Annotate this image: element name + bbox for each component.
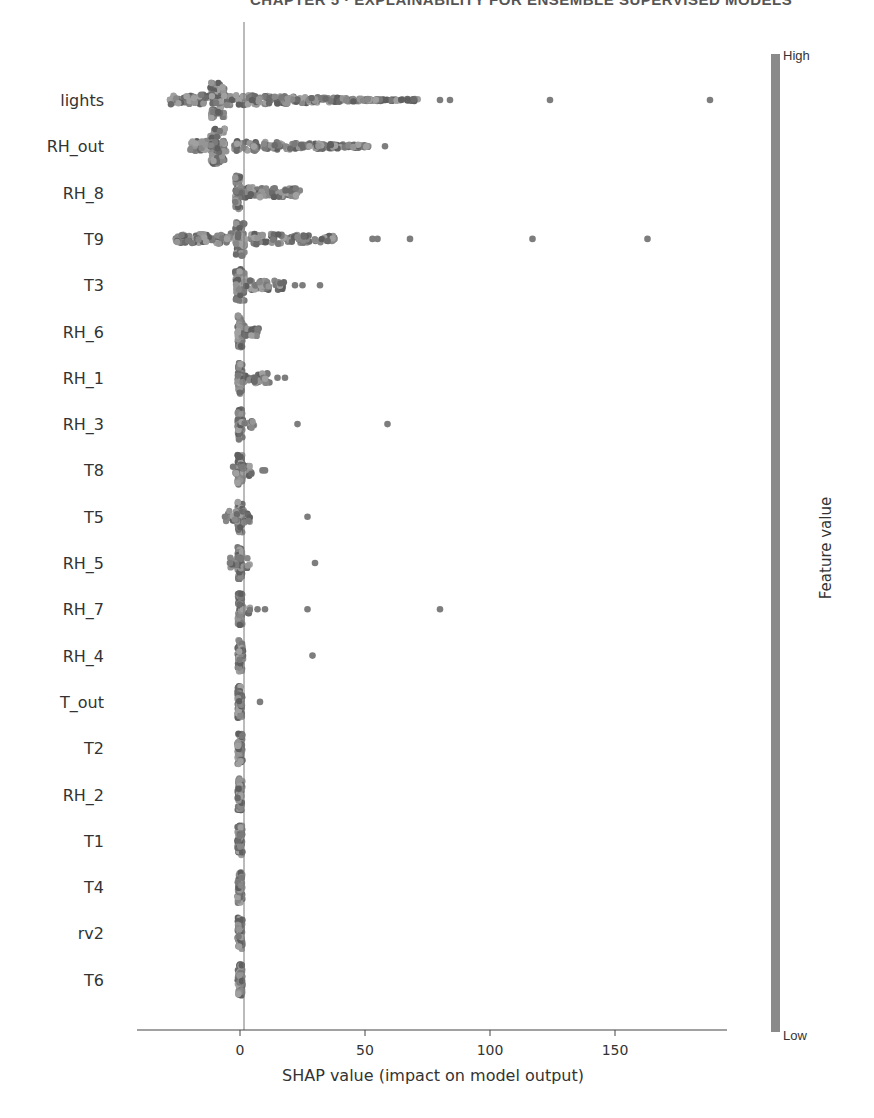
shap-point: [252, 379, 258, 385]
shap-point: [382, 143, 389, 150]
shap-point: [235, 313, 241, 319]
shap-point: [238, 343, 244, 349]
feature-label: RH_2: [63, 785, 104, 804]
feature-label: rv2: [78, 924, 104, 943]
shap-point: [201, 234, 207, 240]
shap-point: [236, 601, 242, 607]
shap-point: [266, 283, 272, 289]
shap-point: [293, 185, 299, 191]
shap-point: [253, 241, 259, 247]
shap-point: [319, 236, 325, 242]
shap-point: [238, 556, 244, 562]
shap-point: [309, 652, 316, 659]
shap-point: [407, 236, 414, 243]
x-tick-label: 50: [356, 1042, 374, 1058]
shap-point: [282, 375, 289, 382]
shap-point: [238, 882, 244, 888]
shap-point: [233, 241, 239, 247]
shap-point: [247, 463, 253, 469]
shap-point: [189, 138, 195, 144]
shap-point: [224, 236, 230, 242]
shap-point: [306, 143, 312, 149]
shap-point: [238, 824, 244, 830]
shap-point: [168, 101, 174, 107]
shap-point: [216, 241, 222, 247]
feature-label: T8: [84, 461, 104, 480]
shap-point: [437, 606, 444, 613]
shap-point: [217, 128, 223, 134]
shap-point: [312, 236, 318, 242]
shap-point: [447, 97, 454, 104]
shap-point: [208, 142, 214, 148]
shap-point: [236, 101, 242, 107]
shap-point: [236, 389, 242, 395]
shap-point: [235, 372, 241, 378]
shap-point: [254, 235, 260, 241]
shap-point: [208, 115, 214, 121]
shap-point: [245, 518, 251, 524]
shap-point: [246, 185, 252, 191]
shap-point: [270, 237, 276, 243]
shap-point: [291, 141, 297, 147]
shap-point: [272, 94, 278, 100]
feature-label: T9: [84, 229, 104, 248]
shap-point: [294, 234, 300, 240]
shap-point: [235, 231, 241, 237]
shap-point: [247, 277, 253, 283]
shap-point: [174, 239, 180, 245]
feature-label: RH_5: [63, 554, 104, 573]
shap-point: [275, 231, 281, 237]
shap-point: [236, 436, 242, 442]
shap-point: [312, 560, 319, 567]
shap-point: [707, 97, 714, 104]
shap-point: [237, 622, 243, 628]
shap-point: [254, 606, 261, 613]
shap-point: [234, 795, 240, 801]
shap-point: [308, 95, 314, 101]
shap-point: [301, 233, 307, 239]
shap-point: [292, 282, 299, 289]
shap-point: [644, 236, 651, 243]
x-tick-label: 0: [236, 1042, 245, 1058]
shap-point: [240, 464, 246, 470]
shap-point: [235, 329, 241, 335]
feature-label: T3: [84, 276, 104, 295]
shap-point: [214, 133, 220, 139]
shap-point: [304, 606, 311, 613]
shap-point: [529, 236, 536, 243]
shap-point: [293, 192, 299, 198]
shap-point: [236, 268, 242, 274]
feature-label: RH_6: [63, 322, 104, 341]
shap-point: [248, 425, 254, 431]
feature-label: T1: [84, 831, 104, 850]
shap-point: [208, 80, 214, 86]
shap-point: [282, 187, 288, 193]
shap-point: [411, 96, 417, 102]
shap-point: [236, 648, 242, 654]
shap-point: [262, 376, 268, 382]
shap-point: [232, 199, 238, 205]
shap-point: [274, 100, 280, 106]
colorbar-low-label: Low: [783, 1028, 807, 1043]
shap-point: [437, 97, 444, 104]
shap-point: [221, 93, 227, 99]
shap-point: [235, 743, 241, 749]
x-axis-title: SHAP value (impact on model output): [282, 1066, 584, 1085]
shap-point: [277, 280, 283, 286]
shap-point: [237, 712, 243, 718]
shap-point: [343, 97, 349, 103]
shap-point: [200, 100, 206, 106]
shap-point: [236, 286, 242, 292]
colorbar-title: Feature value: [817, 497, 835, 599]
shap-point: [236, 943, 242, 949]
shap-point: [236, 926, 242, 932]
shap-point: [261, 141, 267, 147]
colorbar: [771, 54, 780, 1032]
feature-label: RH_7: [63, 600, 104, 619]
shap-point: [198, 92, 204, 98]
shap-point: [262, 606, 269, 613]
beeswarm-points: [167, 80, 714, 999]
shap-point: [245, 562, 251, 568]
shap-point: [315, 143, 321, 149]
shap-point: [350, 144, 356, 150]
